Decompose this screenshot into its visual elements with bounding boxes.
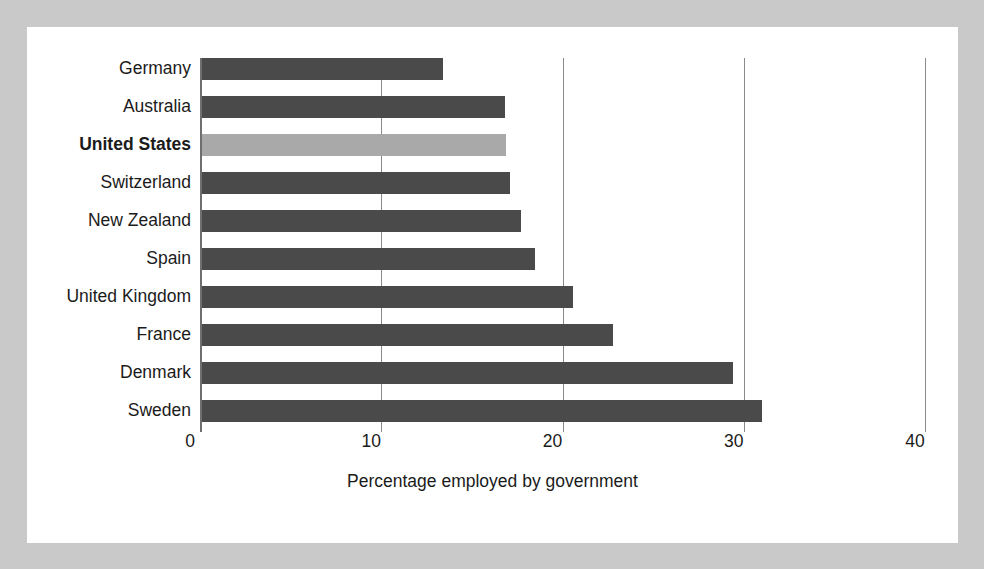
x-axis-line — [200, 58, 202, 432]
bar-united-states — [200, 134, 506, 156]
category-label-new-zealand: New Zealand — [88, 212, 191, 230]
chart-panel: GermanyAustraliaUnited StatesSwitzerland… — [27, 27, 958, 543]
category-label-sweden: Sweden — [128, 402, 191, 420]
category-label-germany: Germany — [119, 60, 191, 78]
x-tick-label-40: 40 — [905, 433, 924, 451]
x-axis-title: Percentage employed by government — [27, 471, 958, 492]
category-label-denmark: Denmark — [120, 364, 191, 382]
category-label-spain: Spain — [146, 250, 191, 268]
bar-france — [200, 324, 613, 346]
bar-spain — [200, 248, 535, 270]
bar-new-zealand — [200, 210, 521, 232]
category-label-australia: Australia — [123, 98, 191, 116]
x-tick-label-0: 0 — [185, 433, 195, 451]
bar-switzerland — [200, 172, 510, 194]
category-label-united-states: United States — [79, 136, 191, 154]
bar-australia — [200, 96, 505, 118]
x-tick-label-30: 30 — [724, 433, 743, 451]
bar-united-kingdom — [200, 286, 573, 308]
x-tick-label-20: 20 — [543, 433, 562, 451]
category-label-switzerland: Switzerland — [101, 174, 191, 192]
category-label-france: France — [137, 326, 191, 344]
figure-frame: GermanyAustraliaUnited StatesSwitzerland… — [0, 0, 984, 569]
category-label-united-kingdom: United Kingdom — [66, 288, 191, 306]
gridline-30 — [744, 58, 745, 432]
bar-denmark — [200, 362, 733, 384]
gridline-40 — [925, 58, 926, 432]
x-tick-label-10: 10 — [362, 433, 381, 451]
plot-area: GermanyAustraliaUnited StatesSwitzerland… — [27, 27, 958, 543]
bar-germany — [200, 58, 443, 80]
bar-sweden — [200, 400, 762, 422]
